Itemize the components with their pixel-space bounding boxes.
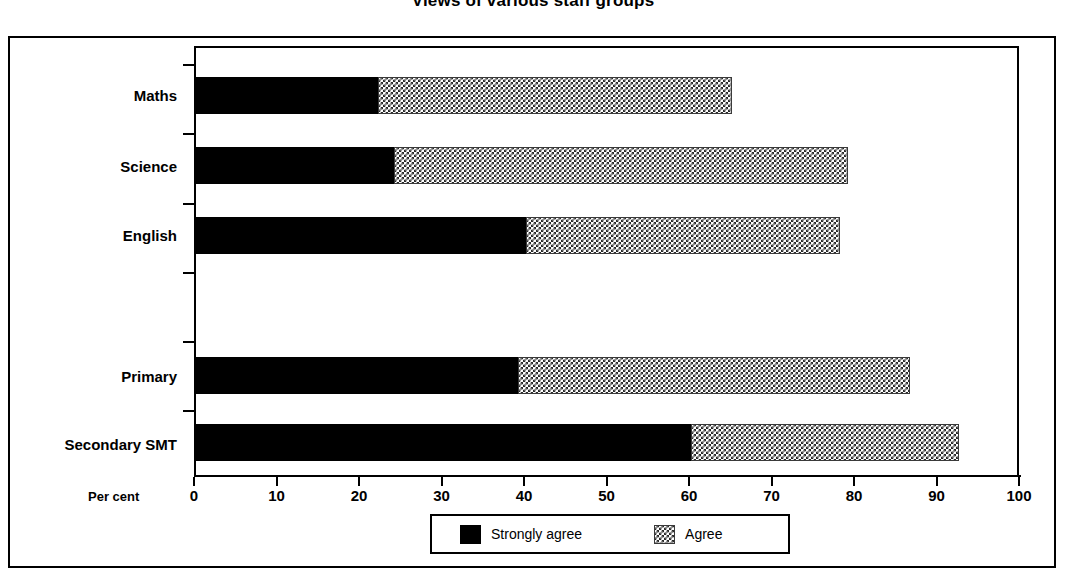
y-axis-tick (183, 64, 195, 66)
x-axis-tick (771, 477, 773, 486)
y-axis-tick (183, 133, 195, 135)
y-axis-label-secondary-smt: Secondary SMT (64, 436, 177, 453)
x-axis-tick (606, 477, 608, 486)
legend-item-agree[interactable]: Agree (654, 525, 722, 544)
x-axis-tick (936, 477, 938, 486)
bar-english[interactable] (196, 217, 840, 254)
x-axis-tick (688, 477, 690, 486)
y-axis-tick (183, 410, 195, 412)
bar-secondary-smt[interactable] (196, 424, 959, 461)
bar-segment-agree (518, 357, 910, 394)
bar-segment-agree (394, 147, 848, 184)
x-axis-tick (523, 477, 525, 486)
x-axis-tick-label: 10 (268, 487, 285, 504)
x-axis-title: Per cent (88, 489, 139, 504)
bar-segment-strongly-agree (196, 217, 526, 254)
x-axis-line (194, 475, 1021, 477)
bar-segment-agree (691, 424, 959, 461)
bar-segment-strongly-agree (196, 357, 518, 394)
bar-science[interactable] (196, 147, 848, 184)
x-axis-tick-label: 70 (763, 487, 780, 504)
x-axis-tick-label: 60 (681, 487, 698, 504)
x-axis-tick-label: 30 (433, 487, 450, 504)
y-axis-label-science: Science (120, 158, 177, 175)
x-axis-tick (193, 477, 195, 486)
x-axis-tick (276, 477, 278, 486)
bar-primary[interactable] (196, 357, 910, 394)
x-axis-tick-label: 100 (1006, 487, 1031, 504)
legend-item-strongly-agree[interactable]: Strongly agree (460, 525, 582, 544)
x-axis-tick (358, 477, 360, 486)
bar-segment-strongly-agree (196, 77, 378, 114)
x-axis-tick (853, 477, 855, 486)
y-axis-label-primary: Primary (121, 368, 177, 385)
x-axis-tick-label: 50 (598, 487, 615, 504)
x-axis-tick (1018, 477, 1020, 486)
bar-segment-agree (378, 77, 733, 114)
x-axis-tick-label: 20 (351, 487, 368, 504)
bar-segment-agree (526, 217, 840, 254)
x-axis-tick-label: 90 (928, 487, 945, 504)
x-axis-tick-label: 80 (846, 487, 863, 504)
checkered-swatch-icon (654, 525, 675, 544)
x-axis-tick (441, 477, 443, 486)
y-axis-tick (183, 272, 195, 274)
bar-maths[interactable] (196, 77, 732, 114)
bar-segment-strongly-agree (196, 147, 394, 184)
y-axis-tick (183, 341, 195, 343)
y-axis-tick (183, 203, 195, 205)
x-axis-tick-label: 40 (516, 487, 533, 504)
x-axis-tick-label: 0 (190, 487, 198, 504)
chart-legend: Strongly agree Agree (430, 514, 790, 554)
bar-segment-strongly-agree (196, 424, 691, 461)
legend-label-strongly-agree: Strongly agree (491, 526, 582, 542)
solid-black-swatch-icon (460, 525, 481, 544)
chart-title: Views of various staff groups (0, 0, 1066, 11)
y-axis-label-maths: Maths (134, 87, 177, 104)
legend-label-agree: Agree (685, 526, 722, 542)
y-axis-label-english: English (123, 227, 177, 244)
